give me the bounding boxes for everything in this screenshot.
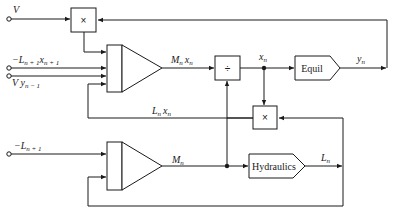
input-terminal-v: [7, 17, 70, 21]
input-terminal-neg-l-next: [7, 152, 106, 156]
label-ln: Ln: [320, 152, 331, 165]
label-v: V: [13, 4, 21, 15]
summing-amplifier-top: [107, 45, 162, 92]
label-neg-l-next-x-next: −Ln + 1xn + 1: [12, 54, 59, 67]
label-v-y-prev: V yn − 1: [12, 77, 40, 90]
multiply-icon: ×: [81, 15, 87, 26]
svg-text:−Ln + 1: −Ln + 1: [14, 140, 42, 153]
label-mn-xn: Mnxn: [170, 54, 193, 67]
equil-block: Equil: [295, 56, 340, 80]
svg-text:Hydraulics: Hydraulics: [252, 161, 296, 172]
divide-icon: ÷: [225, 63, 231, 74]
svg-text:yn: yn: [356, 53, 365, 66]
svg-text:xn: xn: [258, 51, 267, 64]
svg-text:V yn − 1: V yn − 1: [12, 77, 40, 90]
label-ln-xn: Lnxn: [151, 105, 172, 118]
divide-block: ÷: [215, 56, 240, 80]
label-yn: yn: [356, 53, 365, 66]
svg-text:−Ln + 1xn + 1: −Ln + 1xn + 1: [12, 54, 59, 67]
svg-text:Ln: Ln: [320, 152, 331, 165]
multiply-block-mid: ×: [253, 106, 277, 129]
multiply-icon: ×: [262, 112, 268, 123]
svg-text:Mn: Mn: [171, 154, 184, 167]
block-diagram: × ÷ Equil ×: [0, 0, 395, 214]
multiply-block-top: ×: [71, 8, 96, 32]
label-xn: xn: [258, 51, 267, 64]
svg-text:Mnxn: Mnxn: [170, 54, 193, 67]
summing-amplifier-bottom: [107, 142, 162, 190]
label-mn: Mn: [171, 154, 184, 167]
label-neg-l-next: −Ln + 1: [14, 140, 42, 153]
hydraulics-block: Hydraulics: [249, 154, 305, 178]
svg-text:Equil: Equil: [301, 63, 323, 74]
svg-text:Lnxn: Lnxn: [151, 105, 172, 118]
